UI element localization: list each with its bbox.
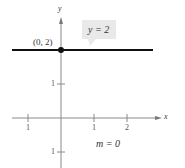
slope-label: m = 0 (96, 139, 120, 149)
x-tick-label-1: 1 (92, 124, 96, 132)
x-axis-label: x (164, 113, 168, 121)
point-label: (0, 2) (33, 38, 53, 47)
point-0-2 (58, 47, 64, 53)
y-axis-arrow-icon (59, 17, 63, 24)
y-tick-label-1: 1 (51, 80, 55, 88)
y-tick-label-neg1: 1 (51, 148, 55, 156)
x-tick-label-neg1: 1 (26, 124, 30, 132)
graph-y-equals-2: y = 2 y x (0, 2) 1 1 2 1 1 m = 0 (0, 0, 185, 168)
label-pointer (88, 39, 96, 46)
y-axis-label: y (58, 5, 62, 13)
x-axis-arrow-icon (155, 116, 162, 120)
equation-label: y = 2 (88, 25, 109, 35)
x-tick-label-2: 2 (125, 124, 129, 132)
